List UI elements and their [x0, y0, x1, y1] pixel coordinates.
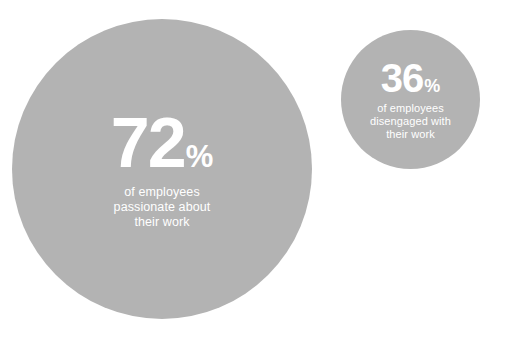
bubble-chart-canvas: 72 % of employees passionate about their…	[0, 0, 505, 338]
bubble-disengaged-caption-line-1: of employees	[370, 102, 451, 115]
bubble-disengaged: 36 % of employees disengaged with their …	[341, 30, 480, 169]
bubble-disengaged-value-unit: %	[424, 77, 440, 95]
bubble-disengaged-value-number: 36	[381, 58, 424, 98]
bubble-disengaged-caption: of employees disengaged with their work	[370, 102, 451, 141]
bubble-passionate-caption-line-3: their work	[114, 215, 211, 230]
bubble-passionate-caption-line-2: passionate about	[114, 200, 211, 215]
bubble-passionate-caption-line-1: of employees	[114, 185, 211, 200]
bubble-disengaged-caption-line-3: their work	[370, 128, 451, 141]
bubble-passionate: 72 % of employees passionate about their…	[12, 19, 312, 319]
bubble-passionate-value: 72 %	[111, 108, 213, 178]
bubble-passionate-value-number: 72	[111, 108, 185, 178]
bubble-disengaged-caption-line-2: disengaged with	[370, 115, 451, 128]
bubble-disengaged-value: 36 %	[381, 58, 441, 98]
bubble-passionate-caption: of employees passionate about their work	[114, 185, 211, 230]
bubble-passionate-value-unit: %	[186, 141, 214, 172]
